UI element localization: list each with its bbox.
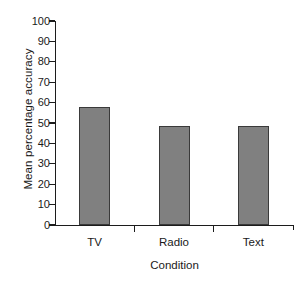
y-axis-tick-mark	[49, 41, 55, 42]
bar	[79, 107, 110, 225]
y-axis-tick-mark	[49, 163, 55, 164]
x-axis-tick-label: Text	[214, 236, 293, 249]
y-axis-tick-mark	[49, 204, 55, 205]
bar	[159, 126, 190, 225]
y-axis-tick-mark	[49, 143, 55, 144]
y-axis-tick-mark	[49, 20, 55, 21]
x-axis-tick-mark	[213, 226, 214, 232]
y-axis-tick-mark	[49, 224, 55, 225]
y-axis-tick-mark	[49, 102, 55, 103]
x-axis-tick-label: Radio	[134, 236, 213, 249]
x-axis-tick-label: TV	[55, 236, 134, 249]
bar-chart: Mean percentage accuracy 010203040506070…	[0, 0, 306, 283]
y-axis-tick-mark	[49, 184, 55, 185]
x-axis-title: Condition	[55, 259, 294, 271]
y-axis-tick-mark	[49, 82, 55, 83]
y-axis-tick-mark	[49, 61, 55, 62]
x-axis-tick-mark	[134, 226, 135, 232]
y-axis-tick-mark	[49, 122, 55, 123]
bars-layer: TVRadioText	[0, 0, 306, 283]
bar	[238, 126, 269, 225]
